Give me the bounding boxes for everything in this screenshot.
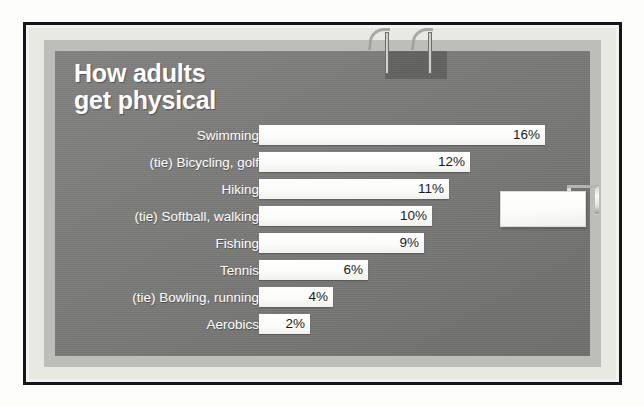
tag-clip-post-right-icon <box>595 185 599 215</box>
bar: 12% <box>259 152 470 172</box>
bar-value: 4% <box>308 288 328 306</box>
tag-clip-arm-icon <box>567 185 597 188</box>
bar-label: Hiking <box>55 180 259 199</box>
clip-post-shape <box>385 32 389 74</box>
top-clip-left-icon <box>369 26 395 76</box>
bar-label: Tennis <box>55 261 259 280</box>
bar-value: 2% <box>285 315 305 333</box>
chart-row: Fishing 9% <box>55 232 590 259</box>
bar-label: Fishing <box>55 234 259 253</box>
chart-row: Aerobics 2% <box>55 313 590 340</box>
chart-row: (tie) Bicycling, golf 12% <box>55 151 590 178</box>
bar-value: 9% <box>399 234 419 252</box>
screenshot-root: How adults get physical Swimming 16% (ti… <box>0 0 644 407</box>
chart-title: How adults get physical <box>74 60 216 114</box>
bar-value: 16% <box>513 126 540 144</box>
top-clip-right-icon <box>412 26 438 76</box>
bar: 6% <box>259 260 368 280</box>
bar-label: (tie) Bicycling, golf <box>55 153 259 172</box>
bar: 2% <box>259 314 310 334</box>
bar-chart: Swimming 16% (tie) Bicycling, golf 12% H… <box>55 124 590 340</box>
bar-label: Swimming <box>55 126 259 145</box>
bar: 9% <box>259 233 424 253</box>
bar-label: (tie) Softball, walking <box>55 207 259 226</box>
bar-value: 10% <box>400 207 427 225</box>
chart-row: Tennis 6% <box>55 259 590 286</box>
clip-post-shape <box>428 32 432 74</box>
chart-row: (tie) Bowling, running 4% <box>55 286 590 313</box>
bar: 10% <box>259 206 432 226</box>
bar: 16% <box>259 125 545 145</box>
bar-label: (tie) Bowling, running <box>55 288 259 307</box>
bar: 4% <box>259 287 333 307</box>
bar-label: Aerobics <box>55 315 259 334</box>
blank-tag <box>500 191 586 227</box>
chart-row: Swimming 16% <box>55 124 590 151</box>
bar: 11% <box>259 179 449 199</box>
bar-value: 11% <box>418 180 444 198</box>
bar-value: 6% <box>343 261 363 279</box>
bar-value: 12% <box>438 153 465 171</box>
